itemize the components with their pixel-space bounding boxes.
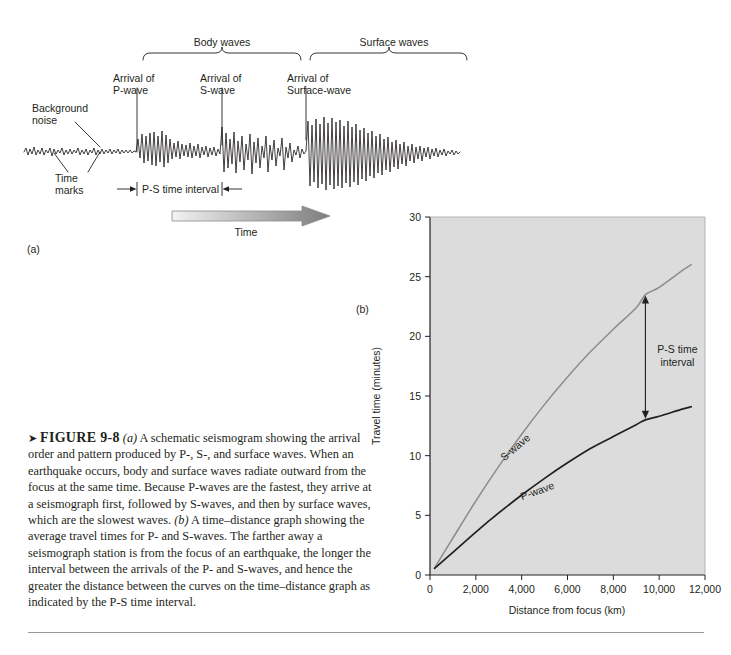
arrival-label-p-wave: Arrival of P-wave xyxy=(113,72,154,96)
x-tick-label: 0 xyxy=(427,583,433,595)
y-tick-label: 15 xyxy=(409,390,421,402)
x-tick-label: 2,000 xyxy=(463,583,489,595)
bracket-label-body-waves: Body waves xyxy=(182,36,262,48)
x-tick-label: 12,000 xyxy=(689,583,721,595)
background-noise-label: Background noise xyxy=(32,102,88,126)
x-axis-title: Distance from focus (km) xyxy=(509,604,626,616)
arrival-label-s-wave: Arrival of S-wave xyxy=(200,72,241,96)
bracket-body-waves xyxy=(143,47,301,60)
panel-b-tag: (b) xyxy=(356,303,369,315)
panel-b-travel-time-graph: (b) 02,0004,0006,0008,00010,00012,000051… xyxy=(398,205,731,620)
caption-arrow-icon: ➤ xyxy=(28,432,37,444)
y-tick-label: 10 xyxy=(409,450,421,462)
leader-time-marks-1 xyxy=(54,153,68,172)
plot-area-background xyxy=(430,217,705,575)
arrival-label-surface-wave: Arrival of Surface-wave xyxy=(287,72,351,96)
y-tick-label: 20 xyxy=(409,330,421,342)
ps-interval-annotation-label: P-S time xyxy=(657,343,697,355)
page-divider-rule xyxy=(28,632,704,633)
caption-panel-a-ref: (a) xyxy=(123,431,137,445)
bracket-label-surface-waves: Surface waves xyxy=(348,36,440,48)
x-tick-label: 8,000 xyxy=(600,583,626,595)
bracket-surface-waves xyxy=(310,47,467,60)
ps-arrow-left-head xyxy=(130,186,137,192)
caption-panel-b-ref: (b) xyxy=(174,513,188,527)
time-arrow xyxy=(172,206,330,226)
figure-9-8: Body waves Surface waves Arrival of P-wa… xyxy=(0,0,731,655)
y-tick-label: 0 xyxy=(415,569,421,581)
panel-a-tag: (a) xyxy=(27,243,40,255)
caption-text-b: A time–distance graph showing the averag… xyxy=(28,513,371,609)
seismogram-trace xyxy=(24,117,460,190)
figure-number: FIGURE 9-8 xyxy=(40,430,120,445)
ps-interval-annotation-label: interval xyxy=(660,356,694,368)
time-marks-label: Time marks xyxy=(55,172,84,196)
x-tick-label: 4,000 xyxy=(509,583,535,595)
ps-time-interval-label: P-S time interval xyxy=(142,183,219,195)
x-tick-label: 10,000 xyxy=(643,583,675,595)
figure-caption: ➤ FIGURE 9-8 (a) A schematic seismogram … xyxy=(28,430,373,610)
x-tick-label: 6,000 xyxy=(554,583,580,595)
time-axis-label: Time xyxy=(216,226,276,238)
y-tick-label: 5 xyxy=(415,509,421,521)
y-tick-label: 25 xyxy=(409,271,421,283)
leader-time-marks-2 xyxy=(88,152,100,172)
y-tick-label: 30 xyxy=(409,211,421,223)
ps-arrow-right-head xyxy=(223,186,230,192)
